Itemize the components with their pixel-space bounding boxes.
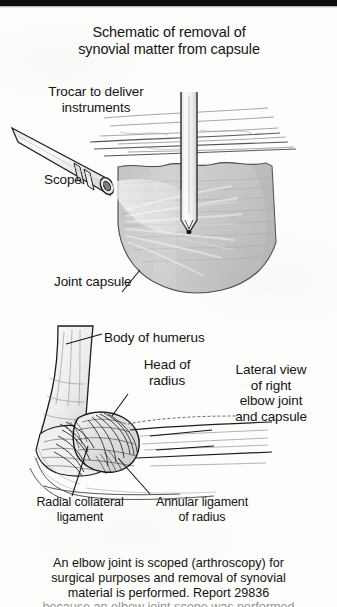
figure-caption-cut-off-line: because an elbow joint scope was perform… (12, 600, 325, 607)
figure-caption: An elbow joint is scoped (arthroscopy) f… (12, 556, 325, 601)
label-trocar: Trocar to deliver instruments (16, 84, 176, 115)
label-annular-ligament-of-radius: Annular ligament of radius (140, 495, 264, 524)
label-head-of-radius: Head of radius (128, 357, 206, 388)
figure-page: Schematic of removal of synovial matter … (0, 0, 337, 607)
figure-title: Schematic of removal of synovial matter … (34, 24, 304, 58)
label-body-of-humerus: Body of humerus (104, 330, 228, 346)
scan-artifact-bar-shadow (0, 6, 337, 8)
leader-lateral-view-2 (156, 446, 214, 450)
leader-head-of-radius (112, 394, 128, 416)
schematic-capsule-illustration (0, 92, 337, 302)
label-joint-capsule: Joint capsule (54, 274, 164, 290)
radius-head (73, 412, 139, 472)
leader-annular (118, 458, 150, 494)
label-radial-collateral-ligament: Radial collateral ligament (22, 495, 138, 524)
label-lateral-view: Lateral view of right elbow joint and ca… (216, 362, 326, 425)
label-scope: Scope (44, 172, 122, 188)
